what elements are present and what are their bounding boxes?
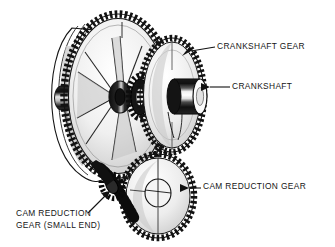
- label-cam-reduction-gear-small-end: CAM REDUCTION GEAR (SMALL END): [16, 208, 146, 231]
- figure-container: CRANKSHAFT GEAR CRANKSHAFT CAM REDUCTION…: [0, 0, 335, 247]
- label-cam-reduction-gear-small-end-line2: GEAR (SMALL END): [16, 220, 146, 232]
- label-crankshaft-gear: CRANKSHAFT GEAR: [217, 41, 305, 53]
- label-crankshaft: CRANKSHAFT: [232, 81, 292, 93]
- leader-line-crankshaft-gear: [191, 47, 215, 51]
- label-cam-reduction-gear: CAM REDUCTION GEAR: [203, 181, 306, 193]
- label-cam-reduction-gear-small-end-line1: CAM REDUCTION: [16, 208, 146, 220]
